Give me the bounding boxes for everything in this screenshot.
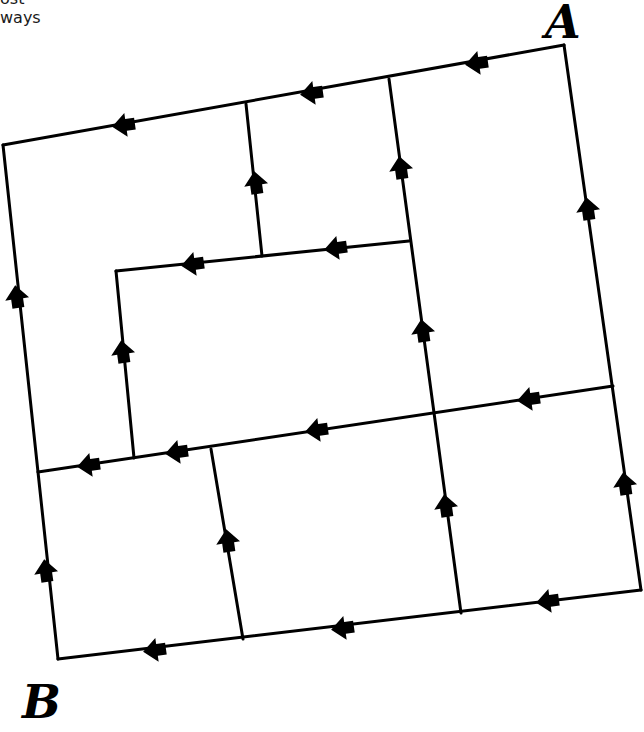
arrow-left-icon — [298, 80, 324, 107]
arrow-left-icon — [110, 112, 136, 139]
arrow-down-icon — [214, 527, 241, 553]
arrow-left-icon — [534, 588, 560, 615]
arrows-group — [3, 50, 638, 664]
arrow-down-icon — [432, 492, 459, 518]
arrow-left-icon — [163, 439, 189, 466]
arrow-down-icon — [109, 338, 136, 364]
path-grid-diagram: A B — [0, 0, 644, 732]
label-end-b: B — [20, 675, 61, 729]
arrow-left-icon — [515, 386, 541, 413]
path-edge — [116, 271, 134, 458]
arrow-left-icon — [322, 235, 348, 262]
arrow-down-icon — [574, 195, 601, 221]
arrow-down-icon — [32, 557, 59, 583]
arrow-left-icon — [141, 637, 167, 664]
arrow-down-icon — [409, 317, 436, 343]
arrow-left-icon — [303, 417, 329, 444]
arrow-left-icon — [75, 452, 101, 479]
arrow-left-icon — [329, 615, 355, 642]
arrow-left-icon — [463, 50, 489, 77]
path-edge — [564, 45, 641, 590]
label-start-a: A — [541, 0, 581, 49]
arrow-left-icon — [179, 251, 205, 278]
path-edge — [3, 145, 58, 659]
arrow-down-icon — [387, 154, 414, 180]
arrow-down-icon — [611, 470, 638, 496]
arrow-down-icon — [3, 283, 30, 309]
edges-group — [3, 45, 641, 659]
arrow-down-icon — [242, 169, 269, 195]
path-edge — [116, 241, 409, 271]
